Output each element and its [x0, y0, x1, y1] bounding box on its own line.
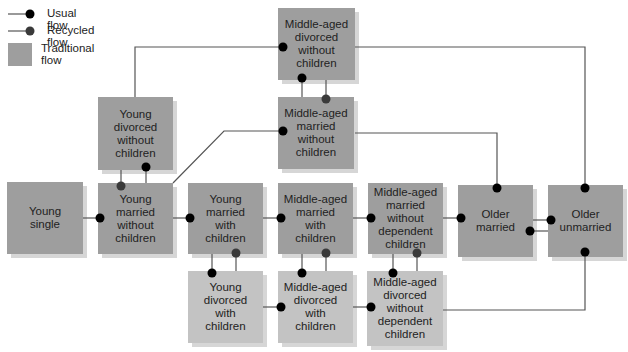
family-life-cycle-diagram: Usual flow Recycled flow Traditional flo… [0, 0, 628, 352]
connectors [0, 0, 628, 352]
